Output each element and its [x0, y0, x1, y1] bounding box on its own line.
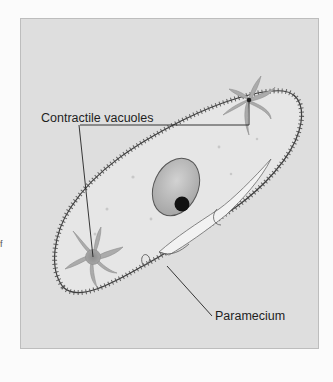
leader-line-paramecium: [167, 266, 212, 316]
label-contractile-vacuoles: Contractile vacuoles: [41, 112, 154, 125]
illustration-panel: Contractile vacuoles Paramecium: [20, 18, 319, 349]
label-paramecium: Paramecium: [215, 310, 285, 323]
cropped-text-fragment: f: [0, 240, 3, 249]
paramecium-illustration: [21, 19, 320, 350]
